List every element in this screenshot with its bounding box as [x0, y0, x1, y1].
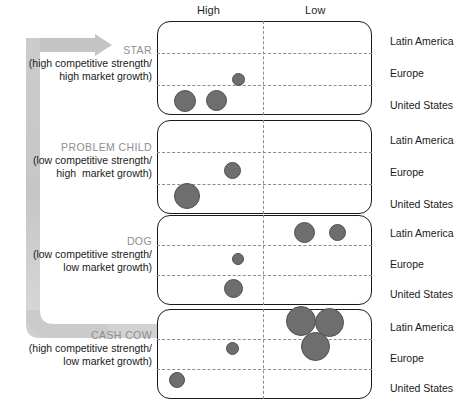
- quadrant-title-problem-child: PROBLEM CHILD: [0, 141, 152, 154]
- quadrant-title-cash-cow: CASH COW: [0, 329, 152, 342]
- region-label-united-states: United States: [390, 99, 453, 111]
- bubble: [301, 332, 330, 361]
- bubble: [226, 342, 239, 355]
- row-separator: [157, 53, 372, 54]
- quadrant-subtitle-problem-child-line1: (low competitive strength/: [0, 154, 152, 167]
- row-separator: [157, 85, 372, 86]
- quadrant-caption-problem-child: PROBLEM CHILD (low competitive strength/…: [0, 141, 152, 180]
- quadrant-subtitle-dog-line2: low market growth): [0, 261, 152, 274]
- region-label-latin-america: Latin America: [390, 227, 454, 239]
- quadrant-subtitle-cash-cow-line1: (high competitive strength/: [0, 342, 152, 355]
- quadrant-subtitle-cash-cow-line2: low market growth): [0, 355, 152, 368]
- bubble: [169, 372, 185, 388]
- quadrant-subtitle-problem-child-line2: high market growth): [0, 167, 152, 180]
- bubble: [224, 279, 243, 298]
- column-header-high: High: [197, 4, 220, 16]
- row-separator: [157, 369, 372, 370]
- bubble: [232, 73, 245, 86]
- bubble: [174, 183, 200, 209]
- region-label-europe: Europe: [390, 67, 424, 79]
- column-header-low: Low: [305, 4, 325, 16]
- quadrant-panel-star: [157, 21, 372, 115]
- bubble: [174, 90, 196, 112]
- quadrant-subtitle-dog-line1: (low competitive strength/: [0, 248, 152, 261]
- quadrant-subtitle-star-line2: high market growth): [0, 70, 152, 83]
- bubble: [232, 253, 244, 265]
- row-separator: [157, 339, 372, 340]
- column-separator: [263, 309, 264, 399]
- bubble: [329, 224, 346, 241]
- column-separator: [263, 21, 264, 115]
- region-label-latin-america: Latin America: [390, 321, 454, 333]
- quadrant-panel-dog: [157, 215, 372, 305]
- quadrant-caption-cash-cow: CASH COW (high competitive strength/ low…: [0, 329, 152, 368]
- region-label-europe: Europe: [390, 258, 424, 270]
- bubble: [206, 90, 227, 111]
- region-label-united-states: United States: [390, 198, 453, 210]
- region-label-europe: Europe: [390, 166, 424, 178]
- column-separator: [263, 120, 264, 214]
- quadrant-title-dog: DOG: [0, 235, 152, 248]
- column-separator: [263, 215, 264, 305]
- quadrant-panel-problem-child: [157, 120, 372, 214]
- region-label-latin-america: Latin America: [390, 35, 454, 47]
- quadrant-subtitle-star-line1: (high competitive strength/: [0, 57, 152, 70]
- region-label-latin-america: Latin America: [390, 134, 454, 146]
- quadrant-caption-dog: DOG (low competitive strength/ low marke…: [0, 235, 152, 274]
- row-separator: [157, 152, 372, 153]
- region-label-united-states: United States: [390, 288, 453, 300]
- region-label-united-states: United States: [390, 382, 453, 394]
- bubble: [224, 162, 241, 179]
- growth-share-matrix-chart: High Low: [0, 0, 469, 409]
- bubble: [294, 222, 315, 243]
- quadrant-caption-star: STAR (high competitive strength/ high ma…: [0, 44, 152, 83]
- quadrant-title-star: STAR: [0, 44, 152, 57]
- row-separator: [157, 245, 372, 246]
- quadrant-panel-cash-cow: [157, 309, 372, 399]
- row-separator: [157, 275, 372, 276]
- region-label-europe: Europe: [390, 352, 424, 364]
